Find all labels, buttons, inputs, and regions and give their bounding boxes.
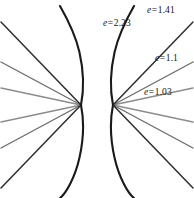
eccentricity-label-1-03: e=1.03 bbox=[144, 88, 172, 98]
eccentricity-label-1-41: e=1.41 bbox=[147, 6, 175, 16]
eccentricity-value: 1.1 bbox=[166, 53, 178, 63]
plot-background bbox=[0, 0, 194, 198]
eccentricity-value: 1.41 bbox=[158, 5, 175, 15]
conic-eccentricity-figure: e=2.23 e=1.41 e=1.1 e=1.03 bbox=[0, 0, 194, 198]
conic-sections-plot bbox=[0, 0, 194, 198]
eccentricity-value: 2.23 bbox=[114, 18, 131, 28]
eccentricity-label-2-23: e=2.23 bbox=[103, 19, 131, 29]
eccentricity-label-1-1: e=1.1 bbox=[155, 54, 178, 64]
eccentricity-value: 1.03 bbox=[155, 87, 172, 97]
